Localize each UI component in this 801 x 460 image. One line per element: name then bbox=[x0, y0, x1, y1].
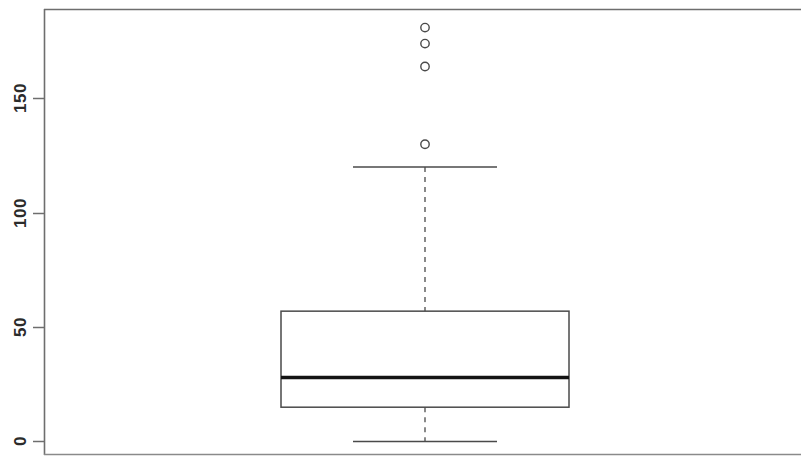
y-tick-label-0: 0 bbox=[11, 436, 30, 446]
outlier-point bbox=[421, 62, 429, 70]
plot-frame bbox=[44, 9, 801, 455]
outlier-point bbox=[421, 39, 429, 47]
outlier-point bbox=[421, 23, 429, 31]
outlier-point bbox=[421, 140, 429, 148]
boxplot-canvas: 0 50 100 150 bbox=[0, 0, 801, 460]
y-tick-label-100: 100 bbox=[11, 198, 30, 228]
boxplot-series bbox=[281, 23, 569, 441]
y-tick-label-150: 150 bbox=[11, 83, 30, 113]
outlier-points bbox=[421, 23, 429, 148]
y-axis-tick-labels: 0 50 100 150 bbox=[11, 83, 30, 446]
y-tick-label-50: 50 bbox=[11, 317, 30, 337]
boxplot-figure: 0 50 100 150 bbox=[0, 0, 801, 460]
y-axis-ticks bbox=[33, 99, 44, 442]
interquartile-box bbox=[281, 311, 569, 407]
